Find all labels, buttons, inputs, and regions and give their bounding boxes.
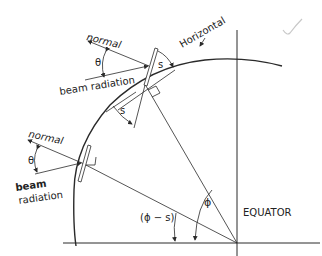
checkmark-icon: [283, 19, 302, 34]
label-theta-upper: θ: [95, 57, 101, 68]
label-s-upper: s: [158, 59, 163, 70]
label-phi: ϕ: [204, 196, 211, 209]
label-theta-lower: θ: [28, 155, 34, 166]
label-normal-lower: normal: [28, 128, 65, 146]
label-equator: EQUATOR: [243, 207, 292, 218]
label-horizontal: Horizontal: [178, 15, 228, 50]
solar-angle-diagram: normal θ beam radiation Horizontal s s n…: [0, 0, 322, 256]
label-s-lower: s: [120, 105, 125, 116]
lower-collector: [28, 140, 96, 182]
label-phi-minus-s: (ϕ − s): [140, 212, 174, 223]
phi-minus-s-arc: [174, 213, 176, 241]
